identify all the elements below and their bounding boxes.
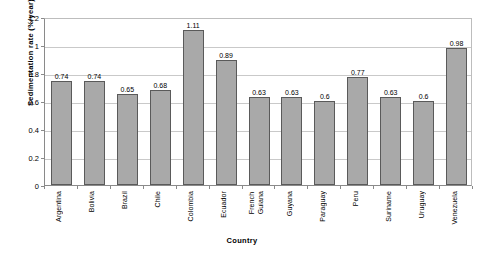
y-tick-label: 1.2 — [0, 14, 44, 23]
x-category-label: Brazil — [121, 191, 132, 209]
bar-value-label: 1.11 — [173, 22, 213, 30]
x-category-label: Chile — [154, 191, 165, 207]
x-tick-mark — [77, 186, 78, 189]
bar[interactable] — [380, 97, 401, 185]
x-tick-mark — [176, 186, 177, 189]
x-tick-mark — [472, 186, 473, 189]
bar[interactable] — [183, 30, 204, 185]
x-tick-mark — [439, 186, 440, 189]
bar[interactable] — [281, 97, 302, 185]
bar[interactable] — [347, 77, 368, 185]
x-category-label: Bolivia — [88, 191, 99, 212]
y-tick-label: 0.6 — [0, 98, 44, 107]
x-tick-mark — [44, 186, 45, 189]
x-category-label: Uruguay — [418, 191, 429, 218]
bar[interactable] — [216, 60, 237, 185]
y-tick-label: 0.8 — [0, 70, 44, 79]
x-category-label: French Guiana — [248, 191, 259, 214]
bar-value-label: 0.89 — [206, 52, 246, 60]
x-category-label: Venezuela — [451, 191, 462, 225]
plot-area: 0.740.740.650.681.110.890.630.630.60.770… — [44, 18, 472, 186]
x-tick-mark — [110, 186, 111, 189]
bar[interactable] — [51, 81, 72, 185]
x-tick-mark — [274, 186, 275, 189]
x-category-label: Paraguay — [319, 191, 330, 222]
bar[interactable] — [249, 97, 270, 185]
x-tick-mark — [209, 186, 210, 189]
bar-value-label: 0.74 — [74, 73, 114, 81]
x-tick-mark — [307, 186, 308, 189]
bar-value-label: 0.77 — [338, 69, 378, 77]
y-tick-label: 1 — [0, 42, 44, 51]
x-category-label: Colombia — [187, 191, 198, 221]
bar[interactable] — [446, 48, 467, 185]
x-category-label: Ecuador — [220, 191, 231, 218]
x-category-label: Peru — [352, 191, 363, 206]
x-category-label: Suriname — [385, 191, 396, 222]
x-category-label: Guyana — [286, 191, 297, 216]
y-tick-label: 0 — [0, 182, 44, 191]
x-tick-mark — [406, 186, 407, 189]
bar-value-label: 0.6 — [404, 93, 444, 101]
bar-value-label: 0.68 — [140, 82, 180, 90]
y-tick-label: 0.2 — [0, 154, 44, 163]
bar[interactable] — [84, 81, 105, 185]
bar[interactable] — [314, 101, 335, 185]
x-tick-mark — [242, 186, 243, 189]
bar-value-label: 0.6 — [305, 93, 345, 101]
bar[interactable] — [413, 101, 434, 185]
x-tick-mark — [143, 186, 144, 189]
bar[interactable] — [117, 94, 138, 185]
bar[interactable] — [150, 90, 171, 185]
x-category-label: Argentina — [55, 191, 66, 222]
x-tick-mark — [340, 186, 341, 189]
sedimentation-rate-bar-chart: Sedimentation rate (%/year) 1.210.80.60.… — [0, 0, 484, 261]
x-tick-mark — [373, 186, 374, 189]
y-tick-label: 0.4 — [0, 126, 44, 135]
gridline — [45, 47, 471, 48]
bar-value-label: 0.98 — [437, 40, 477, 48]
x-axis-title: Country — [0, 236, 484, 245]
